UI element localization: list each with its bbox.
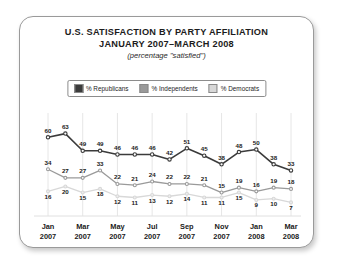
data-point: [64, 176, 67, 179]
data-label: 20: [62, 188, 69, 195]
x-tick-label: Mar2008: [271, 222, 311, 241]
series-1: 606349494646464251453848503833: [45, 123, 295, 172]
data-label: 24: [149, 171, 156, 178]
data-label: 12: [114, 198, 121, 205]
data-point: [116, 153, 119, 156]
data-label: 51: [183, 138, 190, 145]
data-point: [237, 186, 240, 189]
data-label: 27: [62, 167, 69, 174]
data-point: [81, 149, 84, 152]
legend-label: % Democrats: [221, 85, 259, 92]
legend-swatch-icon: [74, 84, 83, 93]
chart-card: U.S. SATISFACTION BY PARTY AFFILIATION J…: [19, 16, 314, 248]
legend-item: % Democrats: [209, 84, 259, 93]
data-point: [185, 182, 188, 185]
data-label: 15: [218, 182, 225, 189]
legend-label: % Independents: [152, 85, 198, 92]
legend-swatch-icon: [209, 84, 218, 93]
data-label: 18: [288, 178, 295, 185]
data-label: 11: [132, 199, 139, 206]
data-point: [151, 180, 154, 183]
data-label: 42: [166, 149, 173, 156]
data-label: 46: [149, 144, 156, 151]
data-point: [290, 187, 293, 190]
data-label: 49: [79, 140, 86, 147]
data-point: [272, 186, 275, 189]
data-label: 50: [253, 139, 260, 146]
data-point: [185, 147, 188, 150]
data-label: 21: [201, 175, 208, 182]
data-point: [168, 182, 171, 185]
data-point: [98, 149, 101, 152]
x-axis-labels: Jan2007Mar2007May2007Jul2007Sep2007Nov20…: [34, 222, 301, 248]
data-point: [255, 190, 258, 193]
x-tick-year: 2008: [271, 232, 311, 242]
legend-item: % Independents: [140, 84, 198, 93]
data-point: [168, 158, 171, 161]
data-label: 22: [183, 173, 190, 180]
data-label: 46: [114, 144, 121, 151]
data-label: 15: [79, 194, 86, 201]
data-point: [203, 154, 206, 157]
legend-label: % Republicans: [86, 85, 129, 92]
chart-title-line2: JANUARY 2007–MARCH 2008: [20, 38, 313, 50]
data-point: [220, 163, 223, 166]
title-block: U.S. SATISFACTION BY PARTY AFFILIATION J…: [20, 26, 313, 62]
data-label: 16: [253, 181, 260, 188]
data-label: 63: [62, 123, 69, 130]
data-label: 9: [255, 201, 259, 208]
data-label: 11: [201, 199, 208, 206]
data-point: [133, 184, 136, 187]
data-label: 60: [45, 127, 52, 134]
data-label: 14: [183, 195, 190, 202]
data-point: [237, 150, 240, 153]
data-point: [150, 153, 153, 156]
x-tick-month: Mar: [271, 222, 311, 232]
data-label: 19: [235, 177, 242, 184]
data-label: 19: [270, 177, 277, 184]
legend-swatch-icon: [140, 84, 149, 93]
data-label: 38: [218, 154, 225, 161]
legend-item: % Republicans: [74, 84, 129, 93]
data-label: 46: [131, 144, 138, 151]
series-2: 342727332221242222211519161918: [45, 159, 295, 194]
data-point: [220, 191, 223, 194]
data-label: 27: [79, 167, 86, 174]
data-point: [272, 163, 275, 166]
data-label: 13: [149, 197, 156, 204]
data-point: [203, 184, 206, 187]
data-point: [289, 169, 292, 172]
data-point: [99, 169, 102, 172]
data-label: 16: [45, 193, 52, 200]
data-label: 33: [97, 160, 104, 167]
data-label: 34: [45, 159, 52, 166]
data-label: 49: [97, 140, 104, 147]
data-label: 22: [166, 173, 173, 180]
data-label: 38: [270, 154, 277, 161]
chart-plot-area: 6063494946464642514538485038333427273322…: [34, 113, 301, 217]
data-point: [64, 132, 67, 135]
data-point: [47, 168, 50, 171]
data-label: 48: [235, 142, 242, 149]
data-label: 11: [218, 199, 225, 206]
data-label: 7: [289, 204, 293, 211]
data-point: [255, 148, 258, 151]
chart-title-line1: U.S. SATISFACTION BY PARTY AFFILIATION: [20, 26, 313, 38]
data-label: 10: [270, 200, 277, 207]
data-label: 18: [97, 190, 104, 197]
chart-subtitle: (percentage "satisfied"): [20, 50, 313, 62]
data-point: [116, 182, 119, 185]
data-point: [133, 153, 136, 156]
data-label: 45: [201, 145, 208, 152]
data-label: 22: [114, 173, 121, 180]
data-label: 21: [131, 175, 138, 182]
data-label: 15: [235, 194, 242, 201]
data-point: [81, 176, 84, 179]
chart-legend: % Republicans% Independents% Democrats: [67, 80, 266, 97]
data-point: [46, 136, 49, 139]
line-chart-svg: 6063494946464642514538485038333427273322…: [34, 113, 301, 217]
data-label: 12: [166, 198, 173, 205]
data-label: 33: [288, 160, 295, 167]
